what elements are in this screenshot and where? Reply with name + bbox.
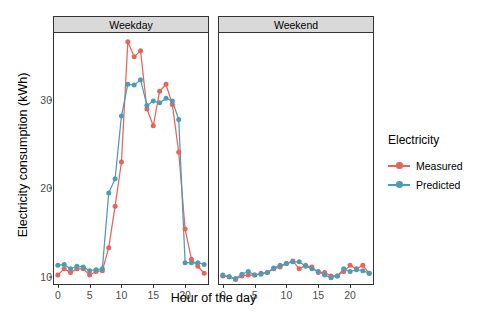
data-point <box>252 273 257 278</box>
y-axis: 102030 <box>12 0 52 315</box>
data-point <box>151 99 156 104</box>
x-tick-mark <box>153 285 154 288</box>
x-tick-mark <box>185 285 186 288</box>
data-point <box>157 89 162 94</box>
data-point <box>62 266 67 271</box>
data-point <box>87 273 92 278</box>
data-point <box>157 100 162 105</box>
strip-label-weekend: Weekend <box>218 16 374 33</box>
data-point <box>195 260 200 265</box>
data-point <box>132 54 137 59</box>
series-layer <box>54 33 208 283</box>
x-tick-mark <box>350 285 351 288</box>
data-point <box>284 261 289 266</box>
data-point <box>164 82 169 87</box>
x-tick-mark <box>255 285 256 288</box>
data-point <box>151 123 156 128</box>
series-layer <box>219 33 373 283</box>
data-point <box>202 271 207 276</box>
legend-item-measured[interactable]: Measured <box>388 156 476 175</box>
data-point <box>138 77 143 82</box>
data-point <box>183 227 188 232</box>
y-tick-label: 10 <box>18 271 52 283</box>
series-line-measured <box>58 42 204 275</box>
data-point <box>297 259 302 264</box>
data-point <box>74 264 79 269</box>
x-tick-mark <box>121 285 122 288</box>
legend: Electricity Measured Predicted <box>388 133 476 194</box>
x-axis-title: Hour of the day <box>53 291 374 305</box>
data-point <box>94 267 99 272</box>
data-point <box>55 263 60 268</box>
data-point <box>125 39 130 44</box>
data-point <box>62 262 67 267</box>
data-point <box>341 266 346 271</box>
data-point <box>113 176 118 181</box>
data-point <box>335 273 340 278</box>
data-point <box>119 114 124 119</box>
data-point <box>176 117 181 122</box>
data-point <box>132 83 137 88</box>
data-point <box>189 260 194 265</box>
data-point <box>202 262 207 267</box>
data-point <box>271 265 276 270</box>
data-point <box>164 96 169 101</box>
data-point <box>113 204 118 209</box>
data-point <box>176 150 181 155</box>
data-point <box>297 266 302 271</box>
legend-item-predicted[interactable]: Predicted <box>388 175 476 194</box>
x-tick-mark <box>286 285 287 288</box>
legend-key-measured-icon <box>388 156 410 175</box>
data-point <box>87 268 92 273</box>
y-tick-label: 30 <box>18 94 52 106</box>
data-point <box>246 269 251 274</box>
data-point <box>259 272 264 277</box>
data-point <box>81 265 86 270</box>
data-point <box>329 275 334 280</box>
data-point <box>55 273 60 278</box>
data-point <box>322 273 327 278</box>
x-tick-mark <box>223 285 224 288</box>
plot-area-weekday <box>53 33 209 285</box>
data-point <box>119 159 124 164</box>
data-point <box>309 266 314 271</box>
data-point <box>290 259 295 264</box>
data-point <box>316 269 321 274</box>
data-point <box>100 266 105 271</box>
plot-area-weekend <box>218 33 374 285</box>
x-tick-mark <box>90 285 91 288</box>
data-point <box>233 276 238 281</box>
data-point <box>354 267 359 272</box>
data-point <box>106 245 111 250</box>
data-point <box>360 268 365 273</box>
y-tick-mark <box>49 188 52 189</box>
data-point <box>265 270 270 275</box>
data-point <box>170 99 175 104</box>
strip-label-weekday: Weekday <box>53 16 209 33</box>
data-point <box>183 260 188 265</box>
legend-key-predicted-icon <box>388 175 410 194</box>
data-point <box>125 82 130 87</box>
series-line-predicted <box>58 80 204 271</box>
data-point <box>220 273 225 278</box>
data-point <box>367 271 372 276</box>
legend-label-measured: Measured <box>416 160 463 172</box>
x-tick-mark <box>318 285 319 288</box>
data-point <box>227 274 232 279</box>
y-tick-label: 20 <box>18 182 52 194</box>
x-tick-mark <box>58 285 59 288</box>
data-point <box>239 272 244 277</box>
data-point <box>138 48 143 53</box>
data-point <box>360 263 365 268</box>
data-point <box>68 266 73 271</box>
data-point <box>144 103 149 108</box>
data-point <box>106 190 111 195</box>
y-tick-mark <box>49 276 52 277</box>
y-tick-mark <box>49 100 52 101</box>
legend-label-predicted: Predicted <box>416 179 460 191</box>
data-point <box>348 263 353 268</box>
legend-title: Electricity <box>388 133 476 147</box>
data-point <box>303 264 308 269</box>
chart-root: Electricity consumption (kWh) 102030 Wee… <box>0 0 479 315</box>
data-point <box>348 269 353 274</box>
